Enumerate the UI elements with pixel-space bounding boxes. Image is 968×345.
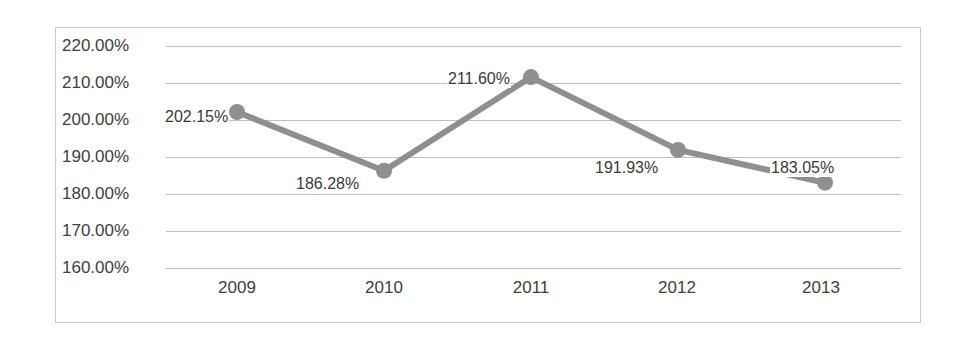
y-axis-tick-220: 220.00% [62, 36, 162, 56]
data-point-2009 [229, 104, 245, 120]
chart-plot-area: 220.00% 210.00% 200.00% 190.00% 180.00% … [55, 27, 921, 323]
y-axis-tick-180: 180.00% [62, 184, 162, 204]
x-axis-tick-2010: 2010 [324, 278, 444, 298]
x-axis-tick-2011: 2011 [471, 278, 591, 298]
data-label-2010: 186.28% [295, 175, 360, 193]
series-polyline [237, 77, 825, 183]
data-label-2011: 211.60% [447, 70, 511, 88]
x-axis-tick-2013: 2013 [761, 278, 881, 298]
gridline-220 [166, 46, 901, 47]
chart-inner-plot: 220.00% 210.00% 200.00% 190.00% 180.00% … [56, 28, 920, 322]
y-axis-tick-170: 170.00% [62, 221, 162, 241]
y-axis-tick-160: 160.00% [62, 258, 162, 278]
x-axis-tick-2012: 2012 [617, 278, 737, 298]
data-label-2012: 191.93% [594, 159, 659, 177]
gridline-170 [166, 231, 901, 232]
data-label-2009: 202.15% [164, 108, 229, 126]
series-markers [229, 69, 833, 191]
gridline-180 [166, 194, 901, 195]
gridline-200 [166, 120, 901, 121]
y-axis-tick-210: 210.00% [62, 73, 162, 93]
data-label-2013: 183.05% [770, 159, 835, 177]
gridline-190 [166, 157, 901, 158]
gridline-210 [166, 83, 901, 84]
y-axis-tick-200: 200.00% [62, 110, 162, 130]
data-point-2010 [376, 163, 392, 179]
data-point-2013 [817, 175, 833, 191]
x-axis-tick-2009: 2009 [177, 278, 297, 298]
data-point-2012 [670, 142, 686, 158]
gridline-160 [166, 268, 901, 269]
y-axis-tick-190: 190.00% [62, 147, 162, 167]
